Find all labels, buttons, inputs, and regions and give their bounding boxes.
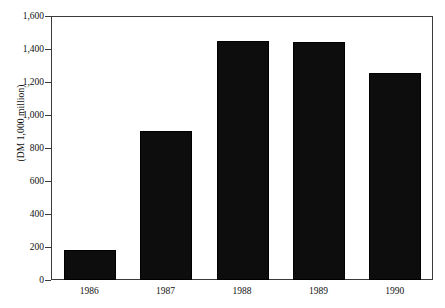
bar-1986 xyxy=(64,250,116,280)
bar-1989 xyxy=(293,42,345,280)
x-tick-label-1986: 1986 xyxy=(54,286,124,296)
y-tick-label: 1,400 xyxy=(2,44,44,54)
y-tick-label: 0 xyxy=(2,275,44,285)
y-tick-label: 1,200 xyxy=(2,77,44,87)
x-tick-label-1990: 1990 xyxy=(360,286,430,296)
bar-1990 xyxy=(369,73,421,280)
x-tick-label-1988: 1988 xyxy=(207,286,277,296)
x-tick-label-1987: 1987 xyxy=(131,286,201,296)
bar-1988 xyxy=(217,41,269,280)
y-tick-label: 400 xyxy=(2,209,44,219)
bar-series xyxy=(51,16,433,280)
y-tick-label: 600 xyxy=(2,176,44,186)
bar-1987 xyxy=(140,131,192,280)
y-tick-label: 1,600 xyxy=(2,11,44,21)
x-tick-label-1989: 1989 xyxy=(283,286,353,296)
y-tick-label: 800 xyxy=(2,143,44,153)
y-tick-label: 1,000 xyxy=(2,110,44,120)
bar-chart: (DM 1,000 million) 02004006008001,0001,2… xyxy=(0,0,445,308)
y-tick-label: 200 xyxy=(2,242,44,252)
